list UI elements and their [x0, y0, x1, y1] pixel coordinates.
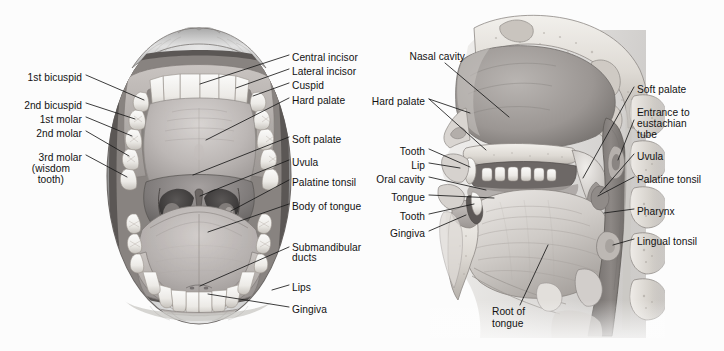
callout-label: eustachian — [637, 118, 687, 129]
callout-label: Tooth — [400, 146, 425, 157]
callout-label: Nasal cavity — [409, 51, 465, 62]
callout-label: Body of tongue — [292, 201, 361, 212]
callout-label: Root of — [492, 306, 525, 317]
callout-label: Cuspid — [292, 80, 324, 91]
callout-label: 1st bicuspid — [28, 72, 82, 83]
callout-label: Palatine tonsil — [637, 174, 701, 185]
callout-label: 1st molar — [40, 114, 82, 125]
callout-label: Hard palate — [292, 95, 345, 106]
callout-label: Palatine tonsil — [292, 177, 356, 188]
callout-label: Gingiva — [390, 228, 425, 239]
callout-label: Soft palate — [637, 84, 686, 95]
callout-label: Pharynx — [637, 206, 675, 217]
callout-label: 3rd molar — [39, 152, 82, 163]
anatomy-illustration — [0, 0, 724, 351]
callout-label: Central incisor — [292, 52, 358, 63]
callout-label: Tongue — [391, 192, 425, 203]
callout-label: 2nd bicuspid — [24, 100, 82, 111]
callout-label: Uvula — [637, 151, 663, 162]
callout-label: Uvula — [292, 157, 318, 168]
figure-canvas: 1st bicuspid2nd bicuspid1st molar2nd mol… — [0, 0, 724, 351]
callout-label: Soft palate — [292, 134, 341, 145]
callout-label: tube — [637, 129, 657, 140]
callout-label: Oral cavity — [376, 174, 425, 185]
callout-label: tooth) — [38, 174, 64, 185]
callout-label: Entrance to — [637, 107, 690, 118]
callout-label: Hard palate — [372, 96, 425, 107]
callout-label: tongue — [492, 318, 523, 329]
callout-label: ducts — [292, 252, 317, 263]
callout-label: Lateral incisor — [292, 66, 356, 77]
callout-label: Lips — [292, 282, 311, 293]
callout-label: Lip — [411, 160, 425, 171]
callout-label: Tooth — [400, 211, 425, 222]
callout-label: (wisdom — [32, 163, 70, 174]
callout-label: Gingiva — [292, 304, 327, 315]
callout-label: Lingual tonsil — [637, 236, 697, 247]
callout-label: 2nd molar — [36, 128, 82, 139]
